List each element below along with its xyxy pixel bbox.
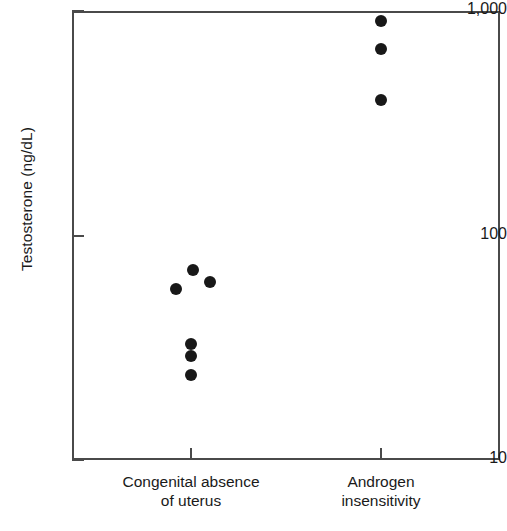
- data-point: [185, 369, 197, 381]
- x-axis-tick: [190, 448, 192, 460]
- y-axis-tick: [72, 10, 84, 12]
- x-axis-group-label-line1: Androgen: [347, 473, 414, 490]
- plot-area: [72, 11, 500, 460]
- x-axis-tick: [380, 448, 382, 460]
- testosterone-dot-plot-figure: Testosterone (ng/dL) 1,00010010 Congenit…: [0, 0, 507, 531]
- y-axis-title: Testosterone (ng/dL): [18, 99, 36, 299]
- y-axis-tick: [72, 459, 84, 461]
- x-axis-group-label-line2: insensitivity: [266, 491, 496, 510]
- data-point: [170, 283, 182, 295]
- data-point: [204, 276, 216, 288]
- data-point: [185, 338, 197, 350]
- y-axis-tick: [72, 235, 84, 237]
- y-axis-tick-label: 10: [445, 449, 507, 467]
- y-axis-tick-label: 1,000: [445, 0, 507, 18]
- x-axis-group-label: Androgeninsensitivity: [266, 472, 496, 510]
- data-point: [375, 43, 387, 55]
- y-axis-tick-label: 100: [445, 225, 507, 243]
- x-axis-group-label-line1: Congenital absence: [122, 473, 259, 490]
